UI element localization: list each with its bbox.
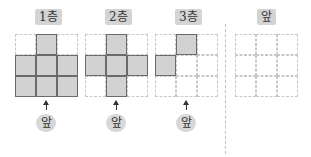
empty-cell xyxy=(15,34,36,55)
empty-cell xyxy=(155,34,176,55)
answer-view-grid[interactable] xyxy=(235,34,298,97)
empty-cell xyxy=(197,34,218,55)
empty-cell[interactable] xyxy=(256,55,277,76)
empty-cell[interactable] xyxy=(277,34,298,55)
floor-1-grid xyxy=(15,34,78,97)
empty-cell xyxy=(155,76,176,97)
separator-line xyxy=(225,24,226,154)
empty-cell[interactable] xyxy=(277,55,298,76)
filled-cell xyxy=(36,76,57,97)
front-label-2: 앞 xyxy=(106,114,126,132)
floor-2-label: 2층 xyxy=(105,9,132,25)
filled-cell xyxy=(15,76,36,97)
empty-cell xyxy=(127,76,148,97)
filled-cell xyxy=(176,34,197,55)
empty-cell[interactable] xyxy=(256,76,277,97)
floor-1-label: 1층 xyxy=(35,9,62,25)
filled-cell xyxy=(15,55,36,76)
filled-cell xyxy=(127,55,148,76)
filled-cell xyxy=(36,34,57,55)
empty-cell xyxy=(85,76,106,97)
filled-cell xyxy=(155,55,176,76)
filled-cell xyxy=(106,76,127,97)
filled-cell xyxy=(57,55,78,76)
filled-cell xyxy=(57,76,78,97)
empty-cell xyxy=(176,55,197,76)
floor-2-grid xyxy=(85,34,148,97)
empty-cell[interactable] xyxy=(277,76,298,97)
filled-cell xyxy=(36,55,57,76)
filled-cell xyxy=(106,55,127,76)
front-label-1: 앞 xyxy=(36,114,56,132)
floor-3-label: 3층 xyxy=(175,9,202,25)
empty-cell xyxy=(176,76,197,97)
front-label-3: 앞 xyxy=(176,114,196,132)
filled-cell xyxy=(85,55,106,76)
empty-cell xyxy=(85,34,106,55)
floor-3-grid xyxy=(155,34,218,97)
empty-cell xyxy=(127,34,148,55)
answer-view-label: 앞 xyxy=(257,9,276,25)
empty-cell[interactable] xyxy=(235,34,256,55)
filled-cell xyxy=(106,34,127,55)
empty-cell[interactable] xyxy=(235,55,256,76)
empty-cell xyxy=(57,34,78,55)
empty-cell xyxy=(197,55,218,76)
empty-cell[interactable] xyxy=(256,34,277,55)
empty-cell xyxy=(197,76,218,97)
empty-cell[interactable] xyxy=(235,76,256,97)
